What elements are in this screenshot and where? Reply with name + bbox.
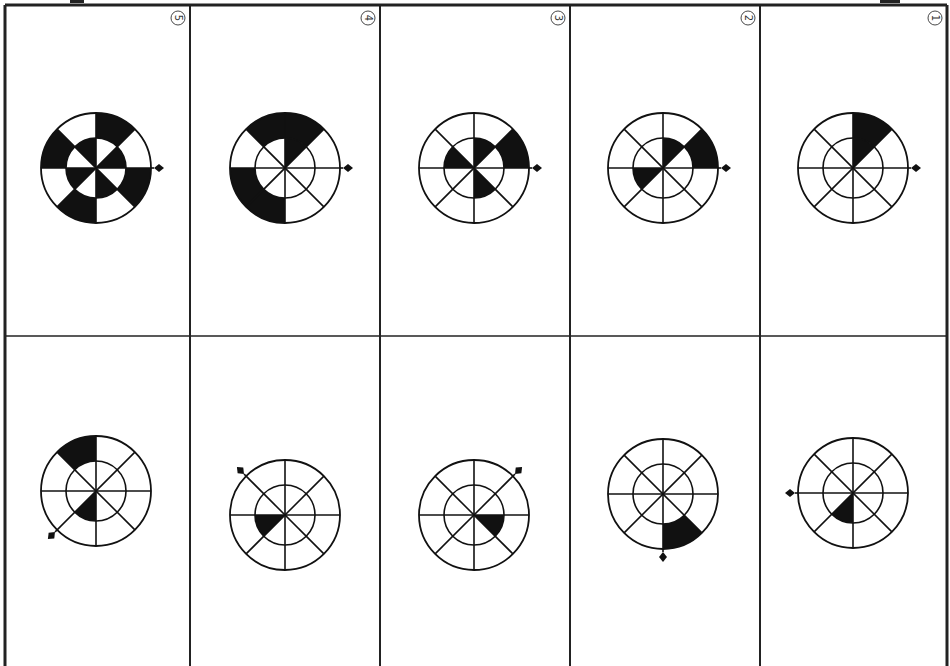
top-panel-3: 3 [419,11,565,223]
panel-number-label: 4 [361,11,375,25]
top-panel-5: 5 [41,11,185,223]
pointer-stem [244,474,246,476]
panel-number-label: 5 [171,11,185,25]
clipped-text-fragment [70,0,84,3]
top-panel-2: 2 [608,11,755,223]
pointer-diamond-icon [532,164,542,172]
panel-number-label: 2 [741,11,755,25]
pointer-diamond-icon [237,467,244,474]
bottom-panel-2 [230,460,340,570]
pointer-diamond-icon [154,164,164,172]
panel-number-text: 2 [743,15,754,21]
bottom-panel-4 [608,439,718,562]
pointer-stem [55,530,57,532]
pointer-diamond-icon [911,164,921,172]
panel-number-text: 5 [173,15,184,21]
top-panel-4: 4 [230,11,375,223]
pointer-diamond-icon [48,532,55,539]
pointer-diamond-icon [515,467,522,474]
pointer-diamond-icon [785,489,795,497]
puzzle-sheet: 54321 [0,0,950,666]
panel-number-text: 1 [930,15,941,21]
panel-number-label: 3 [551,11,565,25]
pointer-stem [513,474,515,476]
bottom-panel-3 [419,460,529,570]
pointer-diamond-icon [721,164,731,172]
bottom-panel-1 [41,436,151,546]
bottom-panel-5 [785,438,908,548]
pointer-diamond-icon [659,552,667,562]
panel-number-text: 4 [363,15,374,21]
pointer-diamond-icon [343,164,353,172]
clipped-text-fragment [880,0,900,3]
panel-number-label: 1 [928,11,942,25]
panel-number-text: 3 [553,15,564,21]
top-panel-1: 1 [798,11,942,223]
panels: 54321 [41,11,942,570]
